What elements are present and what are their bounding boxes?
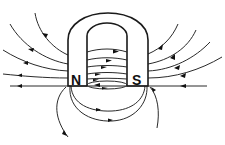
field-line bbox=[87, 49, 127, 52]
field-line bbox=[10, 24, 68, 64]
field-line bbox=[87, 78, 127, 79]
right-field-lines bbox=[148, 24, 222, 88]
field-line bbox=[35, 13, 68, 55]
field-line bbox=[71, 86, 145, 111]
arrow-icon bbox=[101, 66, 107, 69]
arrow-icon bbox=[158, 44, 163, 50]
field-line bbox=[87, 81, 127, 89]
arrow-icon bbox=[62, 130, 67, 136]
bottom-field-lines bbox=[57, 86, 159, 137]
arrow-icon bbox=[42, 33, 48, 38]
arrow-icon bbox=[95, 73, 101, 76]
arrow-icon bbox=[17, 84, 22, 88]
arrow-icon bbox=[106, 59, 112, 63]
field-line bbox=[87, 66, 127, 68]
arrow-icon bbox=[28, 48, 34, 52]
field-line bbox=[150, 87, 158, 128]
arrow-icon bbox=[180, 84, 186, 88]
arrow-icon bbox=[17, 74, 22, 78]
magnet-field-diagram: N S bbox=[0, 0, 225, 145]
south-pole-label: S bbox=[132, 72, 141, 88]
field-line bbox=[87, 73, 127, 75]
inner-field-lines bbox=[87, 49, 127, 90]
north-pole-label: N bbox=[71, 72, 81, 88]
field-line bbox=[3, 50, 68, 71]
field-line bbox=[148, 24, 178, 54]
left-field-lines bbox=[3, 13, 68, 88]
field-line bbox=[57, 87, 68, 137]
field-line bbox=[3, 74, 68, 78]
